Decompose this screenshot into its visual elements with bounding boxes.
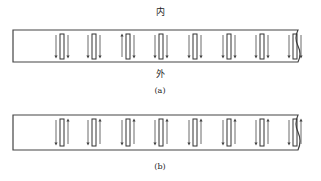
conductor-element: [289, 34, 301, 59]
elements-b: [56, 119, 301, 146]
conductor-element: [223, 34, 235, 59]
conductor-element: [256, 34, 268, 59]
conductor-element: [122, 119, 134, 146]
conductor-element: [155, 34, 167, 59]
conductor-element: [56, 34, 68, 59]
conductor-element: [189, 34, 201, 59]
conductor-element: [189, 119, 201, 146]
conductor-element: [88, 34, 100, 59]
conductor-element: [256, 119, 268, 146]
conductor-element: [155, 119, 167, 146]
elements-a: [56, 34, 301, 59]
conductor-element: [56, 119, 68, 146]
conductor-element: [88, 119, 100, 146]
conductor-element: [223, 119, 235, 146]
conductor-element: [289, 119, 301, 146]
diagram-canvas: [0, 0, 321, 181]
conductor-element: [122, 34, 134, 59]
